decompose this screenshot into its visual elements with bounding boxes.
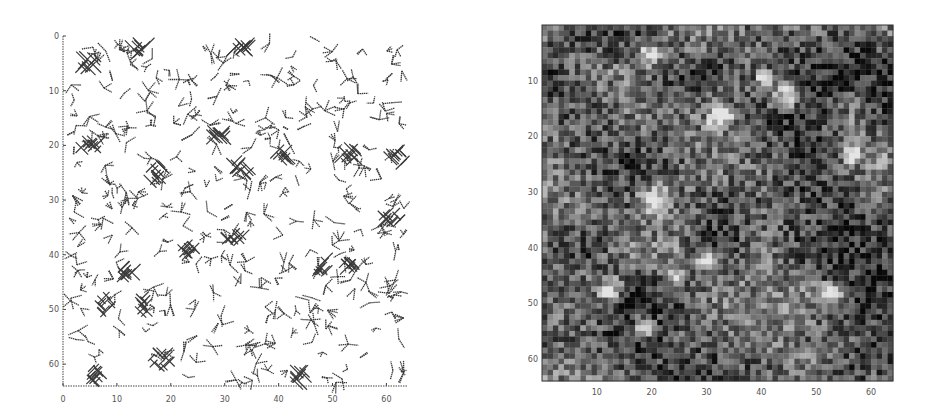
y-tick-label: 20 (528, 132, 538, 141)
y-tick-label: 60 (49, 360, 59, 369)
x-tick-label: 50 (811, 388, 821, 397)
y-tick-label: 50 (49, 305, 59, 314)
x-tick-label: 20 (166, 395, 176, 404)
x-tick-label: 10 (592, 388, 602, 397)
y-tick-label: 0 (54, 32, 59, 41)
x-tick-label: 60 (866, 388, 876, 397)
x-tick-label: 30 (701, 388, 711, 397)
x-tick-label: 50 (327, 395, 337, 404)
x-tick-label: 40 (756, 388, 766, 397)
x-tick-label: 10 (112, 395, 122, 404)
y-tick-label: 30 (49, 196, 59, 205)
x-tick-label: 60 (381, 395, 391, 404)
glyph-field-chart: 01020304050600102030405060 (0, 0, 468, 420)
y-tick-label: 60 (528, 355, 538, 364)
left-glyph-plot: 01020304050600102030405060 (0, 0, 468, 420)
x-tick-label: 20 (647, 388, 657, 397)
grayscale-image-chart: 102030405060102030405060 (468, 0, 936, 420)
y-tick-label: 20 (49, 141, 59, 150)
y-tick-label: 50 (528, 299, 538, 308)
x-tick-label: 30 (220, 395, 230, 404)
y-tick-label: 40 (528, 244, 538, 253)
y-tick-label: 30 (528, 188, 538, 197)
y-tick-label: 10 (528, 77, 538, 86)
glyph-group (63, 33, 410, 393)
y-tick-label: 10 (49, 87, 59, 96)
right-grayscale-map: 102030405060102030405060 (468, 0, 936, 420)
x-tick-label: 0 (60, 395, 65, 404)
x-tick-label: 40 (274, 395, 284, 404)
y-tick-label: 40 (49, 251, 59, 260)
pixel-grid (542, 25, 893, 381)
